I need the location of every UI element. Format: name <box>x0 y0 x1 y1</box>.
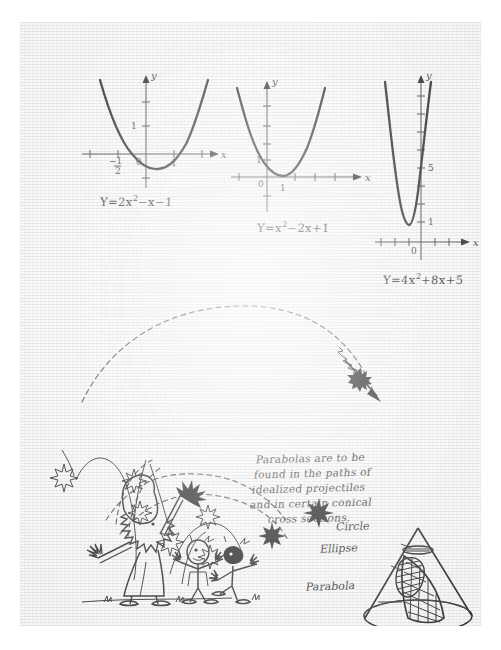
notebook-page: x y 0 1 1 −1 2 Y=2x2−x−1 x <box>20 22 481 626</box>
graph-3-ytick-5: 5 <box>428 163 434 173</box>
parabola-section-hatch <box>403 558 443 622</box>
graph-3-x-arrow <box>461 239 470 246</box>
cone-label-ellipse: Ellipse <box>319 541 359 555</box>
small-trajectory-arc-2 <box>128 468 160 536</box>
graph-3-panel: x y 0 5 1 Y=4x2+8x+5 <box>365 64 481 264</box>
graph-3-xlabel: x <box>473 237 479 248</box>
graph-2-eq-lhs: Y=x <box>256 221 282 235</box>
graph-1-svg: x y 0 1 1 −1 2 <box>78 62 238 192</box>
graph-3-y-arrow <box>418 75 425 83</box>
child-2-torso <box>232 566 233 586</box>
circle-section <box>403 546 433 554</box>
child-figure-2 <box>209 536 259 604</box>
graph-1-ytick-1: 1 <box>131 121 137 131</box>
graph-2-y-arrow <box>264 81 271 89</box>
spark-trail-3 <box>150 464 168 524</box>
graph-1-xtick-1: 1 <box>171 158 177 168</box>
ellipse-leader <box>391 566 402 570</box>
graph-2-svg: x y 0 1 1 <box>225 70 385 215</box>
sparkle-star <box>128 501 152 525</box>
graph-1-ylabel: y <box>150 70 157 81</box>
cone-label-parabola: Parabola <box>305 579 356 594</box>
graph-2-origin-label: 0 <box>258 179 264 189</box>
child-1-shoes <box>182 600 218 604</box>
graph-2-ytick-1: 1 <box>256 155 262 165</box>
graph-3-ylabel: y <box>425 70 432 81</box>
graph-2-curve <box>237 88 325 176</box>
svg-text:2: 2 <box>115 166 121 176</box>
svg-text:−1: −1 <box>109 156 122 166</box>
graph-2-eq-rhs: −2x+1 <box>287 221 330 235</box>
graph-3-origin-label: 0 <box>411 246 417 256</box>
rocket-trajectory-arc <box>82 306 372 402</box>
wizard-shoes <box>120 601 170 606</box>
graph-2-ylabel: y <box>271 76 278 87</box>
child-2-hair <box>224 536 250 544</box>
child-2-eye <box>229 552 232 555</box>
graph-2-x-arrow <box>353 174 362 181</box>
graph-2-equation: Y=x2−2x+1 <box>256 220 330 235</box>
grass-tuft-2 <box>252 594 259 600</box>
wizard-figure <box>87 469 207 606</box>
wizard-hat-body <box>124 492 157 524</box>
wizard-left-hand <box>87 544 102 558</box>
graph-1-xtick-half: −1 2 <box>109 156 122 176</box>
child-figure-1 <box>172 535 224 604</box>
graph-1-y-arrow <box>143 75 150 83</box>
circle-section-hatch <box>405 549 431 551</box>
spark-trail-1 <box>76 458 132 508</box>
sparkle-star <box>196 505 220 529</box>
wizard-eye <box>151 522 154 525</box>
sparkle-star <box>50 464 78 492</box>
graph-1-equation: Y=2x2−x−1 <box>99 194 173 209</box>
child-2-arms <box>218 566 250 580</box>
graph-1-origin-label: 0 <box>136 157 142 167</box>
graph-1-eq-lhs: Y=2x <box>99 195 133 209</box>
graph-1-eq-rhs: −x−1 <box>138 195 174 209</box>
caption-text: Parabolas are to be found in the paths o… <box>247 447 457 527</box>
graph-2-xtick-1: 1 <box>280 183 286 193</box>
wizard-hat-star-icon <box>122 469 146 493</box>
wizard-robe-fold <box>140 562 146 596</box>
graph-1-panel: x y 0 1 1 −1 2 Y=2x2−x−1 <box>78 62 238 192</box>
graph-1-x-arrow <box>210 151 219 158</box>
graph-3-ytick-1: 1 <box>428 217 434 227</box>
cone-label-circle: Circle <box>335 519 370 533</box>
graph-3-svg: x y 0 5 1 <box>365 64 481 264</box>
child-1-eye <box>194 548 197 551</box>
firework-rocket-icon <box>338 347 381 402</box>
graph-2-panel: x y 0 1 1 Y=x2−2x+1 <box>225 70 385 215</box>
child-2-legs <box>220 586 238 602</box>
cone-diagram <box>364 528 472 626</box>
